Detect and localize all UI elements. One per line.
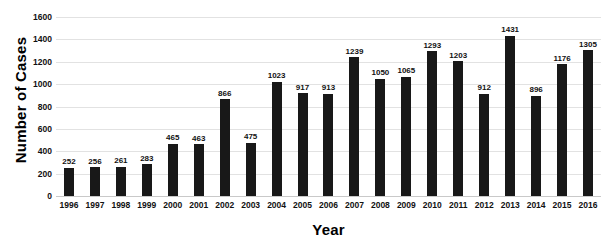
x-axis-tick-labels: 1996199719981999200020012002200320042005…: [56, 199, 601, 213]
bar-value-label: 896: [529, 85, 542, 94]
bar: [453, 61, 463, 196]
y-axis-tick-label: 600: [22, 125, 52, 133]
bar-slot: 917: [290, 17, 316, 196]
x-axis-tick-label: 2006: [319, 199, 338, 211]
bar-value-label: 1239: [346, 47, 364, 56]
bar-slot: 261: [108, 17, 134, 196]
y-axis-tick-label: 400: [22, 147, 52, 155]
bar-value-label: 463: [192, 134, 205, 143]
bar-slot: 1239: [341, 17, 367, 196]
x-axis-tick-label: 2014: [527, 199, 546, 211]
x-axis-tick-label: 2015: [553, 199, 572, 211]
bar-slot: 1293: [419, 17, 445, 196]
bar-value-label: 1176: [553, 54, 570, 63]
bar-slot: 1176: [549, 17, 575, 196]
x-axis-tick-label: 2016: [579, 199, 598, 211]
x-axis-tick-label: 2013: [501, 199, 520, 211]
y-axis-tick-label: 1200: [22, 58, 52, 66]
bar-value-label: 1305: [579, 40, 597, 49]
bar-value-label: 465: [166, 133, 179, 142]
bar-slot: 465: [160, 17, 186, 196]
bar-slot: 256: [82, 17, 108, 196]
x-axis-tick-label: 2004: [267, 199, 286, 211]
y-axis-tick-labels: 16001400120010008006004002000: [22, 0, 52, 247]
bar: [323, 94, 333, 196]
bar-value-label: 256: [88, 157, 101, 166]
bar-value-label: 1203: [449, 51, 467, 60]
bar: [349, 57, 359, 196]
bar-value-label: 283: [140, 154, 153, 163]
bar-slot: 1431: [497, 17, 523, 196]
y-axis-tick-label: 200: [22, 170, 52, 178]
bar-value-label: 1431: [501, 25, 519, 34]
bar: [220, 99, 230, 196]
x-axis-tick-label: 2001: [189, 199, 208, 211]
bar: [194, 144, 204, 196]
bar-slot: 913: [316, 17, 342, 196]
bar: [168, 144, 178, 196]
bar: [557, 64, 567, 196]
bar-value-label: 1293: [423, 41, 441, 50]
bar: [427, 51, 437, 196]
bar: [401, 77, 411, 196]
bar-slot: 896: [523, 17, 549, 196]
bar-value-label: 866: [218, 89, 231, 98]
x-axis-tick-label: 1999: [137, 199, 156, 211]
plot-area: 2522562612834654638664751023917913123910…: [56, 17, 601, 196]
bar-value-label: 1050: [371, 68, 389, 77]
bar-value-label: 252: [62, 157, 75, 166]
bar-slot: 1305: [575, 17, 601, 196]
bar-slot: 866: [212, 17, 238, 196]
bar: [142, 164, 152, 196]
bar: [298, 93, 308, 196]
x-axis-title: Year: [56, 221, 601, 238]
x-axis-tick-label: 1996: [60, 199, 79, 211]
x-axis-tick-label: 2005: [293, 199, 312, 211]
x-axis-tick-label: 2000: [163, 199, 182, 211]
x-axis-tick-label: 2009: [397, 199, 416, 211]
x-axis-tick-label: 2002: [215, 199, 234, 211]
y-axis-tick-label: 1400: [22, 35, 52, 43]
clipped-chart-title: [56, 0, 601, 2]
bar-slot: 912: [471, 17, 497, 196]
bar-value-label: 917: [296, 83, 309, 92]
bar-value-label: 475: [244, 132, 257, 141]
bar: [375, 79, 385, 196]
bar-slot: 1050: [367, 17, 393, 196]
x-axis-tick-label: 2010: [423, 199, 442, 211]
x-axis-tick-label: 2007: [345, 199, 364, 211]
bar-value-label: 913: [322, 83, 335, 92]
bar-value-label: 1023: [268, 71, 286, 80]
x-axis-tick-label: 2011: [449, 199, 467, 211]
bar: [246, 143, 256, 196]
bar: [272, 82, 282, 196]
y-axis-tick-label: 1000: [22, 80, 52, 88]
bar-slot: 475: [238, 17, 264, 196]
y-axis-tick-label: 0: [22, 192, 52, 200]
bar: [64, 168, 74, 196]
bar: [116, 167, 126, 196]
bar-slot: 1203: [445, 17, 471, 196]
bar-slot: 283: [134, 17, 160, 196]
x-axis-tick-label: 2012: [475, 199, 494, 211]
bar-slot: 463: [186, 17, 212, 196]
x-axis-tick-label: 2008: [371, 199, 390, 211]
bar-slot: 1065: [393, 17, 419, 196]
bar: [90, 167, 100, 196]
axis-baseline: [56, 196, 601, 197]
bar: [505, 36, 515, 196]
x-axis-tick-label: 1998: [111, 199, 130, 211]
bar-slot: 1023: [264, 17, 290, 196]
bar: [583, 50, 593, 196]
bar-slot: 252: [56, 17, 82, 196]
x-axis-tick-label: 2003: [241, 199, 260, 211]
bar-value-label: 1065: [397, 66, 415, 75]
bar-value-label: 261: [114, 156, 127, 165]
bar-value-label: 912: [478, 83, 491, 92]
x-axis-tick-label: 1997: [85, 199, 104, 211]
y-axis-tick-label: 1600: [22, 13, 52, 21]
bar: [479, 94, 489, 196]
bar-chart: Number of Cases 160014001200100080060040…: [0, 0, 607, 247]
bar-series: 2522562612834654638664751023917913123910…: [56, 17, 601, 196]
y-axis-tick-label: 800: [22, 103, 52, 111]
